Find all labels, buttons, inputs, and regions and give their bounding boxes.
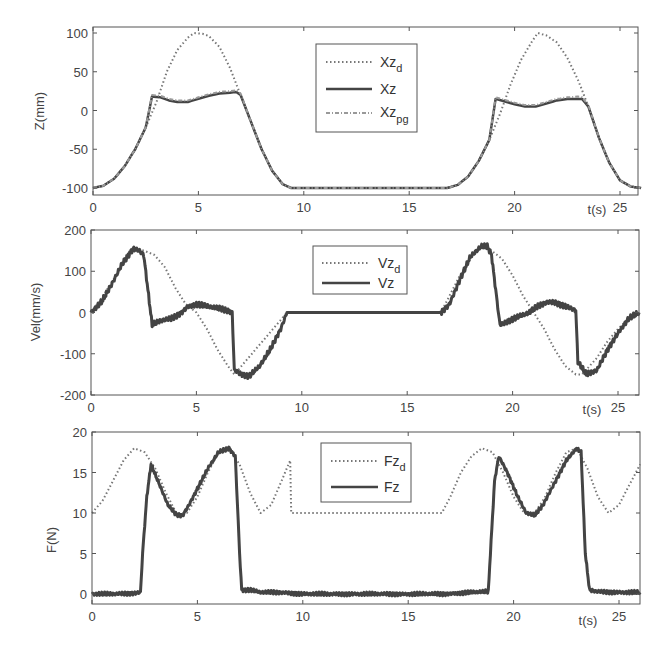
- legend-label: Fz: [384, 479, 400, 495]
- x-tick-label: 0: [89, 200, 96, 215]
- y-tick-label: 50: [74, 65, 88, 80]
- y-tick-label: 10: [73, 506, 87, 521]
- y-tick-label: -100: [62, 181, 88, 196]
- x-tick-label: 5: [195, 200, 202, 215]
- panel-z-position: 0510152025100500-50-100 Z(mm) t(s) Xzd X…: [32, 26, 641, 217]
- y-tick-label: 100: [66, 26, 88, 41]
- x-tick-label: 20: [505, 400, 519, 415]
- x-tick-label: 25: [612, 609, 626, 624]
- x-tick-label: 15: [402, 200, 416, 215]
- x-tick-label: 20: [507, 200, 521, 215]
- x-axis-label: t(s): [583, 402, 602, 417]
- legend-label: Xz: [380, 81, 396, 97]
- y-tick-label: -200: [60, 388, 86, 403]
- x-tick-label: 10: [295, 400, 309, 415]
- y-axis-label: Z(mm): [32, 92, 47, 130]
- panel-velocity: 05101520252001000-100-200 Vel(mm/s) t(s)…: [28, 223, 639, 417]
- y-tick-label: 100: [64, 264, 86, 279]
- y-tick-label: 5: [80, 547, 87, 562]
- y-tick-label: 0: [81, 104, 88, 119]
- x-tick-label: 10: [297, 200, 311, 215]
- x-tick-label: 20: [506, 609, 520, 624]
- x-tick-label: 5: [193, 400, 200, 415]
- x-tick-label: 25: [613, 200, 627, 215]
- x-tick-label: 25: [611, 400, 625, 415]
- legend: Xzd Xz Xzpg: [316, 44, 417, 132]
- y-tick-label: -100: [60, 347, 86, 362]
- y-tick-label: 0: [79, 306, 86, 321]
- y-axis-label: Vel(mm/s): [28, 283, 43, 342]
- legend-label: Vz: [378, 275, 394, 291]
- panel-force: 051015202520151050 F(N) t(s) Fzd Fz: [44, 425, 640, 628]
- x-tick-label: 5: [194, 609, 201, 624]
- x-tick-label: 0: [87, 400, 94, 415]
- y-axis-label: F(N): [44, 527, 59, 553]
- figure: 0510152025100500-50-100 Z(mm) t(s) Xzd X…: [0, 0, 661, 652]
- x-tick-label: 10: [296, 609, 310, 624]
- legend: Vzd Vz: [313, 246, 407, 294]
- y-tick-label: -50: [69, 142, 88, 157]
- y-tick-label: 0: [80, 587, 87, 602]
- y-tick-label: 15: [73, 466, 87, 481]
- x-axis-label: t(s): [579, 613, 598, 628]
- x-tick-label: 0: [88, 609, 95, 624]
- y-tick-label: 20: [73, 425, 87, 440]
- x-tick-label: 15: [400, 400, 414, 415]
- x-tick-label: 15: [401, 609, 415, 624]
- y-tick-label: 200: [64, 223, 86, 238]
- x-axis-label: t(s): [588, 202, 607, 217]
- legend: Fzd Fz: [321, 443, 411, 502]
